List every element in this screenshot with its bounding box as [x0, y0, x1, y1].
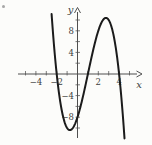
- y-tick-label: 4: [69, 48, 74, 58]
- plot-area: −4−224 84−4−8 y x: [0, 0, 152, 145]
- x-tick-label: −4: [30, 77, 43, 87]
- page-artifact-dot: [2, 5, 5, 8]
- y-axis-label: y: [67, 4, 74, 15]
- y-tick-label: 8: [69, 26, 74, 36]
- y-tick-label: −4: [61, 91, 74, 101]
- x-axis-label: x: [136, 79, 142, 90]
- x-tick-label: 2: [96, 77, 101, 87]
- figure: −4−224 84−4−8 y x: [0, 0, 152, 145]
